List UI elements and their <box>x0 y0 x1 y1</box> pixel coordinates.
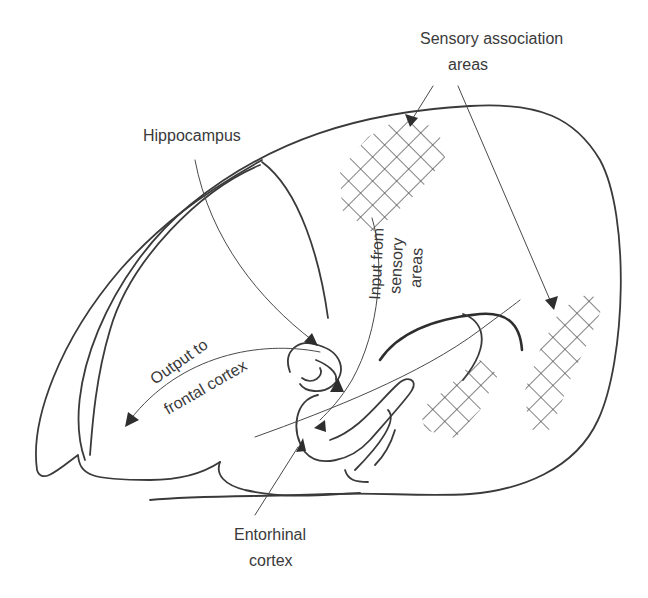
arrowhead-internal <box>314 420 326 432</box>
label-input-group-2: sensory <box>386 237 406 294</box>
hippocampus-head <box>288 343 341 391</box>
arrow-sensory-to-occipital <box>458 86 550 300</box>
arrow-entorhinal <box>255 447 298 515</box>
label-input-group: Input from <box>366 227 387 300</box>
label-cortex: cortex <box>249 552 293 569</box>
arrow-sensory-to-parietal <box>413 86 433 118</box>
temporal-lobe-contour <box>219 462 360 496</box>
parieto-occipital-sulcus <box>262 162 328 318</box>
label-input-line3: areas <box>407 247 426 288</box>
frontal-lower-contour <box>36 160 262 480</box>
hatched-area-parietal <box>340 118 445 232</box>
label-sensory-areas: areas <box>448 56 488 73</box>
hippocampus-structure <box>288 343 414 482</box>
label-hippocampus: Hippocampus <box>143 127 241 144</box>
hatched-area-occipital <box>525 292 602 440</box>
arrowhead-occipital <box>545 296 558 310</box>
brain-diagram: Sensory association areas Hippocampus In… <box>0 0 648 598</box>
label-input-line2: sensory <box>386 237 406 294</box>
hatched-area-temporal <box>420 360 498 438</box>
label-input-group-3: areas <box>407 247 426 288</box>
label-entorhinal: Entorhinal <box>234 526 306 543</box>
labels: Sensory association areas Hippocampus In… <box>143 30 563 569</box>
label-input-line1: Input from <box>366 227 387 300</box>
corpus-callosum-upper <box>380 314 522 360</box>
brain-outline <box>36 105 621 500</box>
label-sensory-association: Sensory association <box>420 30 563 47</box>
arrowhead-output <box>125 412 139 427</box>
connections <box>125 86 558 515</box>
arrowhead-entorhinal <box>296 438 306 452</box>
